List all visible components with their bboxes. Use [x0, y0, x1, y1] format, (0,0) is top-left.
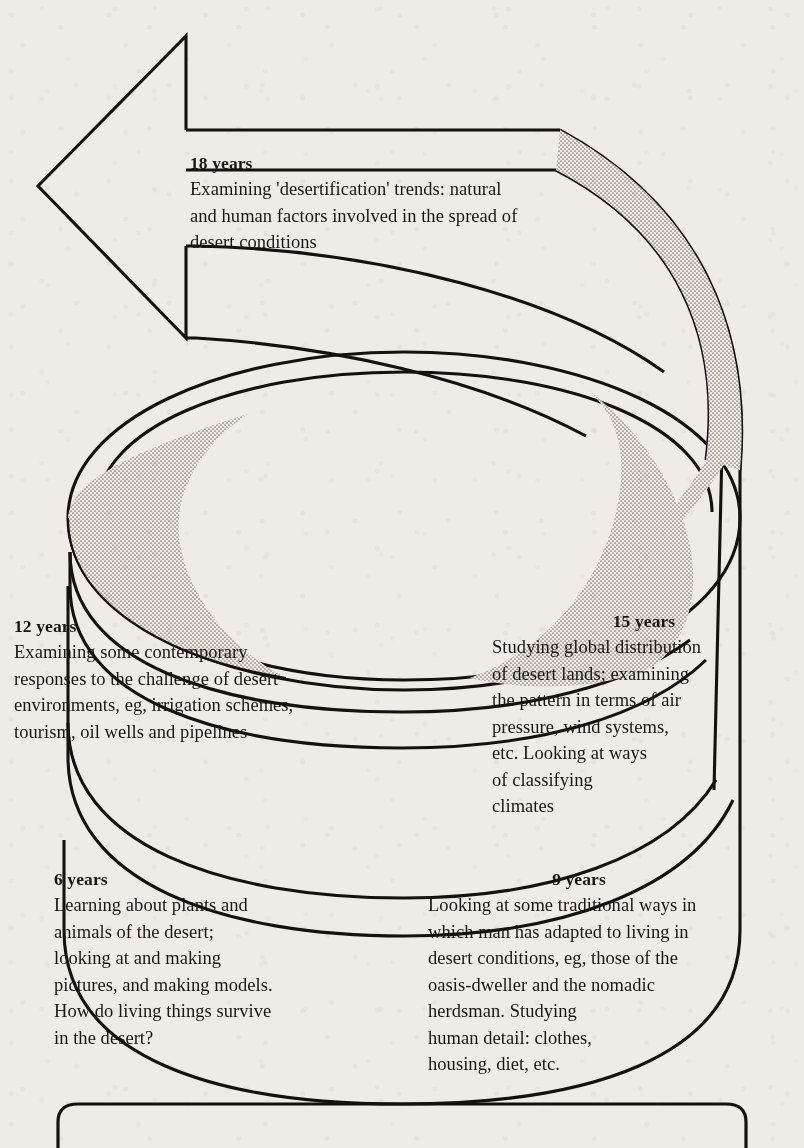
stage-body-6-years: Learning about plants and animals of the…: [54, 892, 414, 1051]
stage-label-6-years: 6 years Learning about plants and animal…: [54, 866, 414, 1051]
stage-heading-6-years: 6 years: [54, 866, 414, 892]
bottom-rounded-box: [58, 1104, 746, 1148]
arrow-head: [38, 36, 186, 338]
stage-body-18-years: Examining 'desertification' trends: natu…: [190, 176, 610, 256]
stage-body-9-years: Looking at some traditional ways in whic…: [428, 892, 768, 1078]
stage-body-12-years: Examining some contemporary responses to…: [14, 639, 414, 745]
stage-heading-18-years: 18 years: [190, 150, 610, 176]
stage-label-18-years: 18 years Examining 'desertification' tre…: [190, 150, 610, 256]
stage-heading-15-years: 15 years: [496, 608, 792, 634]
stage-heading-12-years: 12 years: [14, 613, 414, 639]
stage-heading-9-years: 9 years: [428, 866, 730, 892]
stage-label-9-years: 9 years Looking at some traditional ways…: [428, 866, 768, 1078]
stage-label-15-years: 15 years Studying global distribution of…: [492, 608, 792, 820]
stage-body-15-years: Studying global distribution of desert l…: [492, 634, 792, 820]
spiral-curriculum-diagram: 18 years Examining 'desertification' tre…: [0, 0, 804, 1148]
stage-label-12-years: 12 years Examining some contemporary res…: [14, 613, 414, 745]
